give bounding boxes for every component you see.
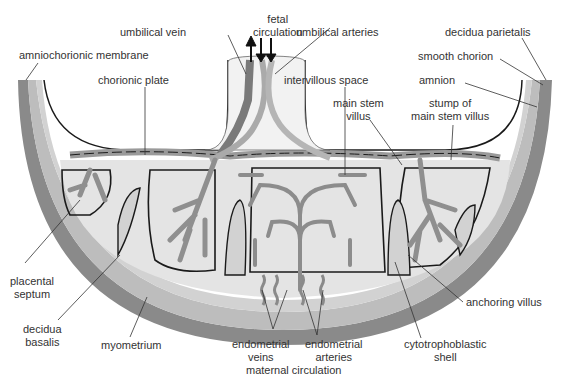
label-amniochorionic-membrane: amniochorionic membrane [19,49,149,62]
label-anchoring-villus: anchoring villus [466,296,542,309]
label-fetal-circulation-line1: fetal [253,13,303,26]
label-cytotrophoblastic-line1: cytotrophoblastic [404,338,487,351]
label-amnion: amnion [419,74,455,87]
label-myometrium: myometrium [101,339,162,352]
label-stump-line1: stump of [411,97,489,110]
label-chorionic-plate: chorionic plate [98,74,169,87]
label-endometrial-arteries: endometrial arteries [305,338,362,364]
label-placental-septum-line2: septum [10,288,54,301]
label-cytotrophoblastic-shell: cytotrophoblastic shell [404,338,487,364]
label-maternal-circulation: maternal circulation [246,364,341,377]
label-main-stem-villus-line1: main stem [333,97,384,110]
label-main-stem-villus-line2: villus [333,110,384,123]
label-decidua-basalis-line1: decidua [23,323,62,336]
label-placental-septum: placental septum [10,275,54,301]
label-decidua-basalis-line2: basalis [23,336,62,349]
label-endometrial-veins: endometrial veins [232,338,289,364]
label-endometrial-veins-line1: endometrial [232,338,289,351]
label-main-stem-villus: main stem villus [333,97,384,123]
label-placental-septum-line1: placental [10,275,54,288]
fetal-circulation-arrows [246,36,276,62]
label-decidua-basalis: decidua basalis [23,323,62,349]
label-cytotrophoblastic-line2: shell [404,351,487,364]
label-intervillous-space: intervillous space [284,74,368,87]
chorionic-plate [70,152,500,158]
label-umbilical-vein: umbilical vein [120,26,186,39]
label-stump-line2: main stem villus [411,110,489,123]
label-endometrial-veins-line2: veins [232,351,289,364]
label-endometrial-arteries-line1: endometrial [305,338,362,351]
label-endometrial-arteries-line2: arteries [305,351,362,364]
label-smooth-chorion: smooth chorion [418,50,493,63]
label-stump-of-main-stem-villus: stump of main stem villus [411,97,489,123]
label-decidua-parietalis: decidua parietalis [445,26,531,39]
label-umbilical-arteries: umbilical arteries [296,26,379,39]
